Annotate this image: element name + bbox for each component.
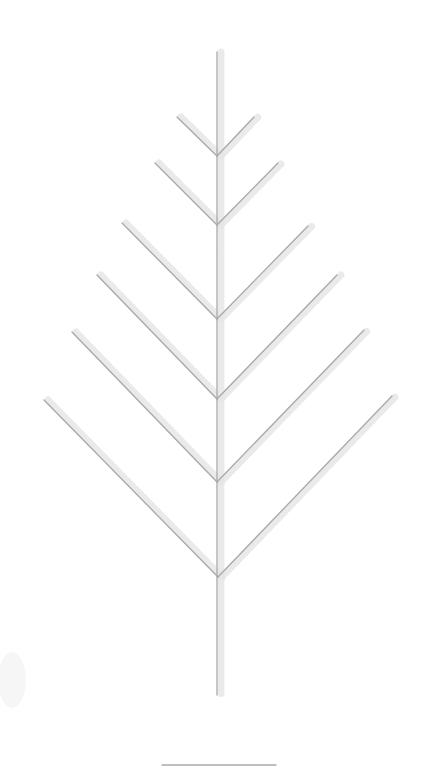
branch-left-5-shading bbox=[76, 332, 221, 482]
branch-left-1-shading bbox=[181, 117, 221, 156]
branch-right-5 bbox=[217, 330, 364, 482]
branch-right-6 bbox=[218, 396, 392, 577]
branch-right-3-shading bbox=[221, 226, 312, 319]
branch-right-2-shading bbox=[221, 163, 282, 225]
branch-left-3 bbox=[122, 223, 217, 319]
branch-left-2 bbox=[155, 163, 217, 225]
branch-left-2-shading bbox=[159, 163, 221, 225]
branch-left-6-shading bbox=[48, 400, 222, 577]
branch-right-5-shading bbox=[221, 330, 368, 482]
fern-sketch bbox=[0, 0, 433, 769]
smudge-mark bbox=[0, 652, 26, 708]
branch-right-6-shading bbox=[222, 396, 396, 577]
branch-left-3-shading bbox=[126, 223, 221, 319]
branch-right-2 bbox=[217, 163, 278, 225]
branch-right-1-shading bbox=[221, 117, 258, 156]
branch-right-3 bbox=[217, 226, 308, 319]
branch-left-5 bbox=[72, 332, 217, 482]
shading-layer bbox=[48, 52, 396, 695]
branch-left-1 bbox=[177, 117, 217, 156]
branch-left-6 bbox=[44, 400, 218, 577]
